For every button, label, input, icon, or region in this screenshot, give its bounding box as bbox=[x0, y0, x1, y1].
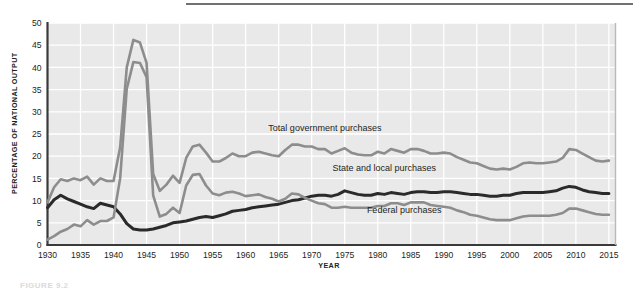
line-chart: 05101520253035404550 1930193519401945195… bbox=[0, 0, 640, 294]
series-label: Federal purchases bbox=[367, 205, 442, 215]
x-axis-tick-labels: 1930193519401945195019551960196519701975… bbox=[38, 250, 619, 260]
figure-caption: FIGURE 9.2 bbox=[20, 281, 69, 290]
x-tick-label: 1980 bbox=[368, 250, 387, 260]
x-tick-label: 1935 bbox=[71, 250, 90, 260]
y-tick-label: 20 bbox=[32, 151, 42, 161]
y-tick-label: 40 bbox=[32, 63, 42, 73]
x-tick-label: 1965 bbox=[269, 250, 288, 260]
x-tick-label: 1990 bbox=[434, 250, 453, 260]
x-tick-label: 2010 bbox=[566, 250, 585, 260]
x-tick-label: 1995 bbox=[467, 250, 486, 260]
x-tick-label: 1960 bbox=[236, 250, 255, 260]
y-tick-label: 25 bbox=[32, 129, 42, 139]
x-tick-label: 2005 bbox=[533, 250, 552, 260]
x-tick-label: 1945 bbox=[137, 250, 156, 260]
series-label: Total government purchases bbox=[268, 123, 382, 133]
x-tick-label: 2015 bbox=[599, 250, 618, 260]
x-tick-label: 2000 bbox=[500, 250, 519, 260]
y-axis-tick-labels: 05101520253035404550 bbox=[32, 18, 42, 250]
x-tick-label: 1950 bbox=[170, 250, 189, 260]
x-tick-label: 1930 bbox=[38, 250, 57, 260]
series-label: State and local purchases bbox=[333, 163, 437, 173]
figure-container: 05101520253035404550 1930193519401945195… bbox=[0, 0, 640, 294]
y-tick-label: 35 bbox=[32, 85, 42, 95]
y-tick-label: 45 bbox=[32, 40, 42, 50]
y-axis-title: PERCENTAGE OF NATIONAL OUTPUT bbox=[10, 52, 19, 194]
x-axis-title: YEAR bbox=[318, 261, 340, 270]
y-tick-label: 10 bbox=[32, 196, 42, 206]
x-tick-label: 1975 bbox=[335, 250, 354, 260]
x-tick-label: 1940 bbox=[104, 250, 123, 260]
y-tick-label: 15 bbox=[32, 174, 42, 184]
y-tick-label: 30 bbox=[32, 107, 42, 117]
x-tick-label: 1985 bbox=[401, 250, 420, 260]
y-tick-label: 5 bbox=[37, 218, 42, 228]
y-tick-label: 50 bbox=[32, 18, 42, 28]
x-tick-label: 1970 bbox=[302, 250, 321, 260]
x-tick-label: 1955 bbox=[203, 250, 222, 260]
